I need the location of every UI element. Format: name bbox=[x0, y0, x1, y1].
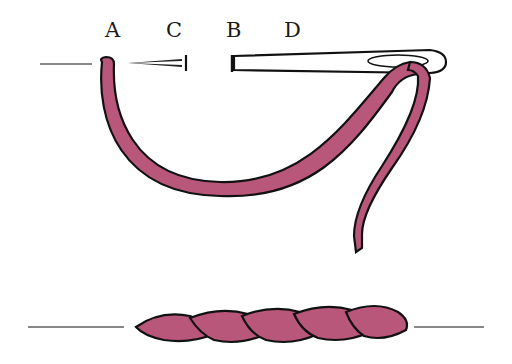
finished-stitch-twist bbox=[136, 306, 407, 342]
label-d: D bbox=[284, 20, 301, 41]
label-a: A bbox=[105, 20, 120, 41]
point-c-marker bbox=[128, 55, 186, 71]
stitch-diagram bbox=[0, 0, 512, 364]
label-b: B bbox=[226, 20, 241, 41]
label-c: C bbox=[166, 20, 182, 41]
thread-curve bbox=[101, 57, 418, 196]
